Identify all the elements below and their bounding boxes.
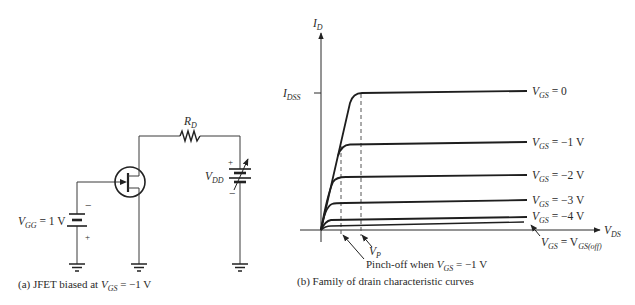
caption-b: (b) Family of drain characteristic curve… [297, 275, 474, 288]
drain-characteristics-plot: ID VDS IDSS VGS = 0 VGS = −1 V VGS = −2 … [282, 17, 621, 288]
idss-label: IDSS [282, 87, 301, 102]
ground-icon [69, 264, 85, 271]
vgg-label: VGG = 1 V [18, 215, 66, 230]
vgg-plus-sign: + [85, 232, 90, 242]
curve-label-vgs-minus1: VGS = −1 V [532, 136, 585, 151]
vdd-label: VDD [205, 170, 224, 185]
y-axis-label: ID [312, 17, 323, 32]
vdd-minus-sign: − [229, 187, 236, 199]
vgg-minus-sign: − [85, 199, 92, 211]
curve-label-vgs-0: VGS = 0 [532, 85, 567, 100]
curve-label-vgs-off: VGS = VGS(off) [541, 236, 602, 251]
ground-icon [232, 264, 248, 271]
ground-icon [131, 264, 147, 271]
supply-wire [200, 136, 240, 264]
jfet-circuit: − + VGG = 1 V + − VDD RD (a) JFET biased… [18, 115, 251, 293]
curve-vgs-0 [321, 91, 527, 230]
curve-label-vgs-minus4: VGS = −4 V [532, 210, 585, 225]
figure: − + VGG = 1 V + − VDD RD (a) JFET biased… [0, 0, 635, 305]
pinchoff-arrow [343, 235, 364, 259]
drain-wire [139, 136, 180, 168]
caption-a: (a) JFET biased at VGS = −1 V [18, 278, 151, 293]
x-axis-label: VDS [604, 224, 621, 239]
gate-wire [77, 182, 124, 264]
resistor-rd-icon [180, 131, 200, 141]
pinchoff-label: Pinch-off when VGS = −1 V [366, 258, 487, 273]
curve-label-vgs-minus2: VGS = −2 V [532, 169, 585, 184]
jfet-leads [128, 168, 139, 197]
vgg-battery-icon [67, 214, 87, 226]
vdd-plus-sign: + [228, 157, 233, 167]
curve-vgs-minus1 [338, 142, 527, 156]
curve-label-vgs-minus3: VGS = −3 V [532, 194, 585, 209]
rd-label: RD [183, 115, 197, 130]
gate-arrow-icon [120, 179, 127, 185]
curve-vgs-off [321, 222, 524, 230]
